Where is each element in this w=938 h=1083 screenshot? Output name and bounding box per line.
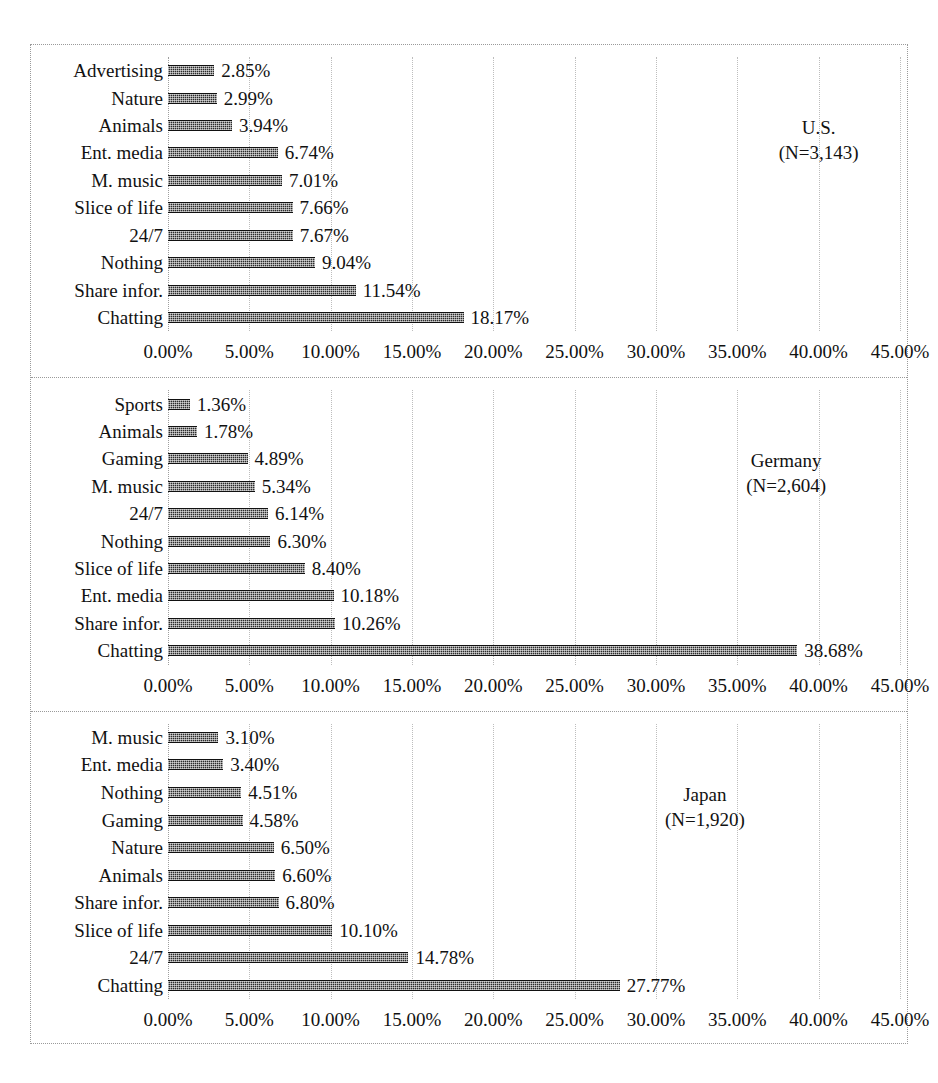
bar (168, 536, 270, 547)
bar-row: Nature6.50% (168, 834, 900, 861)
gridline-45 (900, 57, 901, 331)
bar-value-label: 5.34% (262, 477, 311, 496)
bar (168, 618, 335, 629)
x-tick-label: 35.00% (708, 675, 767, 697)
category-label: Nothing (13, 783, 163, 802)
bar-value-label: 3.40% (230, 755, 279, 774)
country-annotation: Germany(N=2,604) (746, 448, 826, 498)
x-tick-label: 20.00% (464, 1009, 523, 1031)
bar (168, 120, 232, 131)
category-label: 24/7 (13, 504, 163, 523)
gridline-45 (900, 390, 901, 664)
bar (168, 759, 223, 770)
category-label: Sports (13, 395, 163, 414)
bar-value-label: 7.01% (289, 171, 338, 190)
category-label: M. music (13, 477, 163, 496)
category-label: Share infor. (13, 281, 163, 300)
x-tick-label: 30.00% (627, 675, 686, 697)
bar-row: 24/714.78% (168, 944, 900, 971)
bar-value-label: 7.66% (300, 198, 349, 217)
bar (168, 285, 356, 296)
bar-value-label: 18.17% (471, 308, 530, 327)
chart-panel-germany: Sports1.36%Animals1.78%Gaming4.89%M. mus… (31, 378, 907, 711)
bar-row: Chatting27.77% (168, 972, 900, 999)
bar-row: 24/76.14% (168, 500, 900, 527)
bar-row: Chatting38.68% (168, 637, 900, 664)
x-tick-label: 15.00% (383, 675, 442, 697)
x-tick-label: 25.00% (545, 675, 604, 697)
bar (168, 870, 275, 881)
bar-value-label: 27.77% (627, 976, 686, 995)
bar-value-label: 6.50% (281, 838, 330, 857)
bar-value-label: 10.26% (342, 614, 401, 633)
category-label: Animals (13, 866, 163, 885)
bar-row: M. music7.01% (168, 167, 900, 194)
x-tick-label: 0.00% (143, 1009, 192, 1031)
bar-value-label: 9.04% (322, 253, 371, 272)
chart-panel-us: Advertising2.85%Nature2.99%Animals3.94%E… (31, 45, 907, 378)
x-tick-label: 40.00% (789, 341, 848, 363)
bar-value-label: 6.30% (277, 532, 326, 551)
bar (168, 787, 241, 798)
category-label: 24/7 (13, 948, 163, 967)
bar (168, 147, 278, 158)
x-tick-label: 20.00% (464, 675, 523, 697)
category-label: Share infor. (13, 893, 163, 912)
bar (168, 257, 315, 268)
bar (168, 897, 279, 908)
bar-value-label: 6.60% (282, 866, 331, 885)
bar-row: Slice of life7.66% (168, 194, 900, 221)
plot-area: M. music3.10%Ent. media3.40%Nothing4.51%… (168, 724, 900, 999)
bar-row: Animals6.60% (168, 862, 900, 889)
category-label: Nature (13, 838, 163, 857)
bar-row: Share infor.10.26% (168, 610, 900, 637)
category-label: Ent. media (13, 143, 163, 162)
bar-row: Ent. media3.40% (168, 751, 900, 778)
category-label: Slice of life (13, 921, 163, 940)
category-label: M. music (13, 171, 163, 190)
bar-value-label: 11.54% (363, 281, 421, 300)
bar-value-label: 4.58% (250, 811, 299, 830)
x-tick-label: 45.00% (871, 675, 930, 697)
bar (168, 230, 293, 241)
category-label: M. music (13, 728, 163, 747)
country-sample-size: (N=2,604) (746, 473, 826, 498)
country-sample-size: (N=3,143) (779, 140, 859, 165)
bar (168, 312, 464, 323)
plot-area: Advertising2.85%Nature2.99%Animals3.94%E… (168, 57, 900, 331)
bar-value-label: 8.40% (312, 559, 361, 578)
bar-value-label: 4.89% (255, 449, 304, 468)
bar-row: Slice of life8.40% (168, 555, 900, 582)
bar (168, 980, 620, 991)
bar-value-label: 6.74% (285, 143, 334, 162)
country-annotation: Japan(N=1,920) (665, 782, 745, 832)
bar-row: Share infor.6.80% (168, 889, 900, 916)
country-name: U.S. (779, 115, 859, 140)
bar-row: Animals1.78% (168, 418, 900, 445)
x-tick-label: 15.00% (383, 1009, 442, 1031)
x-tick-label: 0.00% (143, 675, 192, 697)
bar (168, 453, 248, 464)
bar (168, 732, 218, 743)
x-tick-label: 5.00% (225, 1009, 274, 1031)
x-tick-label: 5.00% (225, 341, 274, 363)
country-name: Germany (746, 448, 826, 473)
category-label: Ent. media (13, 586, 163, 605)
country-sample-size: (N=1,920) (665, 807, 745, 832)
bar-value-label: 4.51% (248, 783, 297, 802)
x-tick-label: 40.00% (789, 675, 848, 697)
bar-row: Chatting18.17% (168, 304, 900, 331)
category-label: Nature (13, 89, 163, 108)
bar-value-label: 38.68% (804, 641, 863, 660)
x-tick-label: 45.00% (871, 341, 930, 363)
x-tick-label: 20.00% (464, 341, 523, 363)
bar (168, 175, 282, 186)
category-label: Gaming (13, 811, 163, 830)
x-tick-label: 5.00% (225, 675, 274, 697)
category-label: Chatting (13, 976, 163, 995)
bar-value-label: 10.10% (339, 921, 398, 940)
bar-value-label: 2.99% (224, 89, 273, 108)
bar-rows: Advertising2.85%Nature2.99%Animals3.94%E… (168, 57, 900, 331)
x-axis: 0.00%5.00%10.00%15.00%20.00%25.00%30.00%… (168, 341, 900, 363)
bar (168, 508, 268, 519)
